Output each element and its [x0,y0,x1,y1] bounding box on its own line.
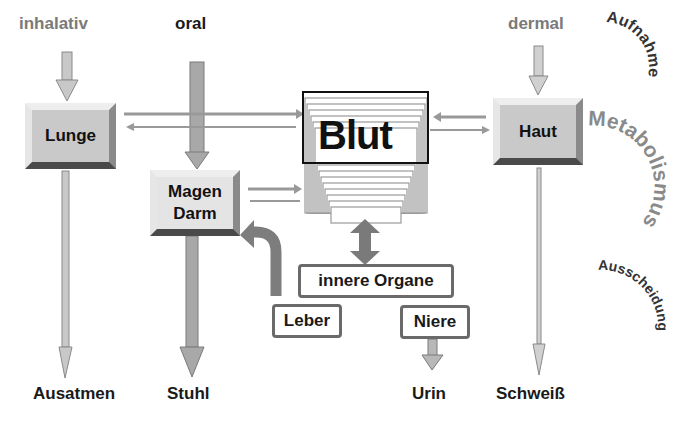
organ-innere-organe-box: innere Organe [298,264,454,298]
organ-blut-label: Blut [318,113,392,158]
urin-arrow-icon [422,339,443,370]
organ-lunge-box: Lunge [25,103,116,169]
excretion-schweiss-label: Schweiß [496,384,565,404]
excretion-ausatmen-label: Ausatmen [33,384,115,404]
excretion-stuhl-label: Stuhl [167,384,210,404]
phase-aufnahme-label: Aufnahme [606,8,664,78]
organ-leber-label: Leber [284,311,330,331]
inhalativ-arrow-icon [56,52,78,101]
haut-blut-arrows-icon [430,112,490,134]
dermal-arrow-icon [529,46,548,95]
excretion-urin-label: Urin [412,384,446,404]
phase-metabolismus-label: Metabolismus [588,106,674,233]
organ-magen-darm-box: Magen Darm [150,170,240,236]
organ-darm-label: Darm [173,203,216,225]
route-oral-label: oral [175,14,206,34]
organ-haut-box: Haut [493,98,583,165]
stuhl-arrow-icon [180,236,204,377]
organ-niere-label: Niere [414,312,457,332]
schweiss-arrow-icon [533,168,545,375]
organ-magen-label: Magen [168,181,222,203]
organ-leber-box: Leber [272,304,342,338]
route-inhalativ-label: inhalativ [19,14,88,34]
phase-ausscheidung-label: Ausscheidung [598,257,671,331]
organ-lunge-label: Lunge [45,125,96,147]
lunge-blut-arrows-icon [124,109,304,131]
magen-blut-arrows-icon [248,184,302,201]
leber-return-arrow-icon [240,220,276,296]
organ-haut-label: Haut [519,121,557,143]
arrows-layer: Aufnahme Metabolismus Ausscheidung [0,0,689,424]
organ-innere-organe-label: innere Organe [318,271,433,291]
organ-niere-box: Niere [400,305,470,339]
blut-organe-double-arrow-icon [350,219,380,265]
route-dermal-label: dermal [508,14,564,34]
ausatmen-arrow-icon [59,171,72,378]
